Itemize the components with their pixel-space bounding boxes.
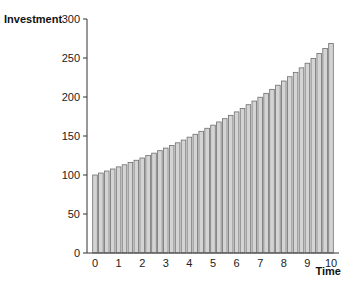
bar [169,145,174,253]
bar [305,63,310,253]
bar [299,68,304,253]
bar-chart: 050100150200250300 012345678910 Investme… [0,0,360,291]
y-axis-label: Investment [4,13,62,25]
x-axis-label: Time [316,265,341,277]
bar [252,101,257,253]
bar [105,171,110,253]
bar [258,97,263,253]
bar [270,89,275,253]
bar [152,153,157,253]
y-tick-label: 100 [62,169,80,181]
x-tick-label: 6 [234,257,240,269]
bar [234,112,239,253]
y-tick-label: 50 [68,208,80,220]
bar [276,85,281,253]
x-tick-label: 7 [257,257,263,269]
y-tick-label: 250 [62,52,80,64]
x-tick-label: 9 [304,257,310,269]
x-ticks: 012345678910 [92,257,337,269]
bars [93,44,334,253]
bar [110,169,115,253]
bar [293,72,298,253]
bar [181,140,186,253]
x-tick-label: 4 [186,257,192,269]
bar [323,49,328,253]
bar [146,156,151,253]
bar [246,105,251,253]
x-tick-label: 5 [210,257,216,269]
bar [164,148,169,253]
bar [317,54,322,253]
y-tick-label: 150 [62,130,80,142]
bar [199,131,204,253]
bar [175,143,180,253]
x-tick-label: 3 [163,257,169,269]
bar [228,115,233,253]
bar [287,77,292,253]
bar [329,44,334,253]
x-tick-label: 1 [116,257,122,269]
bar [122,165,127,253]
bar [264,93,269,253]
x-tick-label: 0 [92,257,98,269]
y-tick-label: 0 [74,247,80,259]
y-ticks: 050100150200250300 [62,13,87,259]
bar [187,137,192,253]
bar [240,108,245,253]
bar [193,134,198,253]
bar [116,167,121,253]
y-tick-label: 300 [62,13,80,25]
y-tick-label: 200 [62,91,80,103]
bar [311,58,316,253]
bar [128,163,133,253]
bar [93,175,98,253]
bar [205,128,210,253]
bar [223,119,228,253]
x-tick-label: 2 [139,257,145,269]
bar [99,173,104,253]
bar [158,151,163,253]
bar [140,158,145,253]
bar [211,125,216,253]
x-tick-label: 8 [281,257,287,269]
bar [282,81,287,253]
bar [217,122,222,253]
bar [134,160,139,253]
